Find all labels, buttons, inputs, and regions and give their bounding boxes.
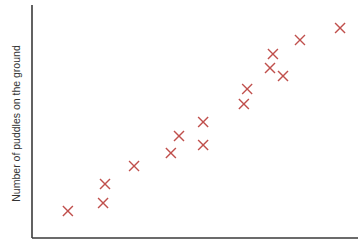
- data-point-marker: [242, 84, 252, 94]
- data-point-marker: [166, 148, 176, 158]
- data-point-marker: [198, 117, 208, 127]
- scatter-chart: Number of puddles on the ground: [0, 0, 363, 244]
- data-point-marker: [100, 179, 110, 189]
- data-point-marker: [295, 35, 305, 45]
- data-point-marker: [335, 23, 345, 33]
- data-point-marker: [63, 206, 73, 216]
- data-point-marker: [98, 198, 108, 208]
- data-point-marker: [265, 63, 275, 73]
- data-point-marker: [278, 71, 288, 81]
- data-point-marker: [268, 49, 278, 59]
- markers-group: [63, 23, 345, 216]
- data-point-marker: [198, 140, 208, 150]
- data-point-marker: [129, 161, 139, 171]
- data-point-marker: [239, 99, 249, 109]
- data-point-marker: [174, 131, 184, 141]
- y-axis-label: Number of puddles on the ground: [10, 45, 22, 202]
